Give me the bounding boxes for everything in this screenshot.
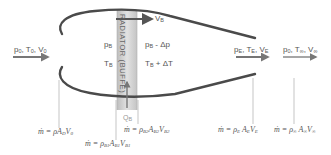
mass-flow-far-wake-formula: ṁ = ρ∞ A∞V∞ — [274, 126, 316, 134]
radiator-downstream-temperature: TB + ΔT — [145, 60, 173, 69]
mass-flow-radiator-in-formula: ṁ = ρB1AB1VB1 — [85, 140, 130, 148]
exit-state-label: pE, TE, VE — [234, 46, 268, 55]
inlet-state-label: p0, T0, V0 — [14, 46, 47, 55]
radiator-label: RADIATOR (BUFFE) — [117, 14, 127, 104]
radiator-upstream-temperature: TB — [104, 60, 113, 69]
mass-flow-exit-formula: ṁ = ρE AEVE — [218, 126, 258, 134]
radiator-downstream-pressure: pB - Δp — [145, 41, 170, 50]
mass-flow-radiator-out-formula: ṁ = ρB2AB2VB2 — [124, 126, 169, 134]
far-wake-state-label: p0, T∞, V∞ — [283, 46, 317, 55]
leader-lines — [59, 78, 294, 140]
mass-flow-inlet-formula: ṁ = ρADV0 — [38, 128, 73, 136]
heat-input-label: QB — [123, 114, 132, 123]
duct-lower-wall — [60, 67, 255, 97]
radiator-duct-diagram: RADIATOR (BUFFE) p0, T0, V0 VB pB TB pB … — [0, 0, 331, 155]
bypass-velocity-label: VB — [155, 15, 164, 24]
radiator-upstream-pressure: pB — [104, 41, 112, 50]
